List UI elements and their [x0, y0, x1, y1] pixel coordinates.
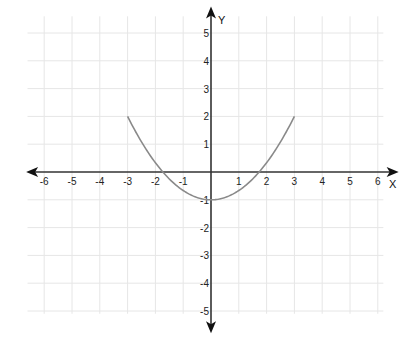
x-tick-label: 3 [292, 176, 298, 187]
y-tick-label: -4 [200, 278, 209, 289]
y-tick-label: 1 [203, 139, 209, 150]
y-tick-label: -2 [200, 223, 209, 234]
x-tick-label: 5 [347, 176, 353, 187]
y-tick-label: 4 [203, 56, 209, 67]
x-axis-label: X [389, 178, 397, 190]
x-tick-label: -1 [179, 176, 188, 187]
x-tick-label: -4 [95, 176, 104, 187]
y-tick-label: 3 [203, 84, 209, 95]
x-tick-label: -3 [123, 176, 132, 187]
x-tick-label: 2 [264, 176, 270, 187]
y-tick-label: -5 [200, 306, 209, 317]
axes [26, 7, 399, 334]
x-tick-label: 4 [319, 176, 325, 187]
y-tick-label: 2 [203, 111, 209, 122]
x-tick-label: -5 [68, 176, 77, 187]
coordinate-plane: -6-5-4-3-2-112345654321-1-2-3-4-5 X Y [0, 0, 418, 353]
x-tick-label: 1 [236, 176, 242, 187]
x-tick-label: -6 [40, 176, 49, 187]
y-axis-label: Y [218, 14, 226, 26]
x-tick-label: 6 [375, 176, 381, 187]
x-tick-label: -2 [151, 176, 160, 187]
y-tick-label: 5 [203, 28, 209, 39]
y-tick-label: -3 [200, 250, 209, 261]
